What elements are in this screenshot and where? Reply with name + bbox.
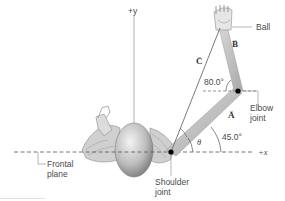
shoulder-joint-label-line2: joint: [155, 187, 171, 197]
divider: [0, 198, 45, 199]
x-axis-label: +x: [258, 147, 268, 157]
angle-arc-45: [211, 127, 221, 152]
arm-vector-diagram: [0, 0, 285, 201]
ball-hand: [214, 5, 232, 30]
ball-label: Ball: [256, 22, 270, 32]
vector-arrow-icon: →: [232, 36, 238, 45]
head: [115, 123, 153, 177]
elbow-joint-label-line2: joint: [250, 113, 266, 123]
vector-b-label: → B: [232, 40, 238, 49]
theta-label: θ: [197, 137, 201, 147]
elbow-angle-label: 80.0°: [204, 77, 224, 87]
vector-c-label: → C: [196, 57, 203, 66]
angle-arc-80: [226, 80, 231, 91]
shoulder-joint-label-line1: Shoulder: [155, 177, 189, 187]
vector-arrow-icon: →: [196, 53, 203, 62]
frontal-leader: [38, 152, 46, 164]
shoulder-joint-dot: [168, 149, 173, 154]
elbow-joint-label-line1: Elbow: [250, 103, 273, 113]
frontal-plane-label-line2: plane: [47, 169, 68, 179]
y-axis-label: +y: [128, 6, 137, 16]
frontal-plane-label-line1: Frontal: [47, 159, 73, 169]
vector-a-label: → A: [228, 111, 235, 120]
elbow-joint-dot: [235, 88, 240, 93]
vector-arrow-icon: →: [228, 107, 235, 116]
shoulder-angle-label: 45.0°: [222, 132, 242, 142]
body-figure: [82, 106, 175, 177]
